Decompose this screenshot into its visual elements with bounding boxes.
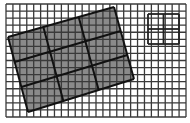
grid-diagram xyxy=(0,0,190,123)
